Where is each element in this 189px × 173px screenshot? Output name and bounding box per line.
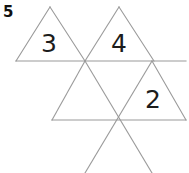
triangle-puzzle-figure: 5 3 4 2 [0, 0, 189, 173]
triangle-label-2: 2 [145, 87, 161, 112]
triangle-label-3: 3 [41, 31, 57, 56]
triangle-face-middle-blank [52, 61, 118, 120]
triangle-label-4: 4 [111, 31, 127, 56]
